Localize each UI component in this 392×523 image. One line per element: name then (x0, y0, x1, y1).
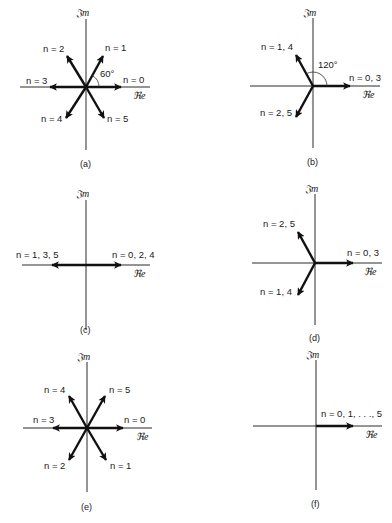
panel-a: 𝔍m ℜe n = 0 n = 1 n = 2 n = 3 n = 4 n = … (20, 7, 150, 169)
vector-n2-5 (298, 232, 315, 263)
vector-label: n = 3 (33, 414, 54, 425)
vector-label: n = 0 (123, 74, 144, 85)
panel-e: 𝔍m ℜe n = 0 n = 5 n = 4 n = 3 n = 2 n = … (23, 351, 152, 512)
vector-label: n = 0, 1, . . ., 5 (321, 408, 382, 419)
vector-label: n = 1 (105, 42, 126, 53)
vector-label: n = 0, 3 (347, 247, 379, 258)
real-axis-label: ℜe (133, 268, 146, 279)
real-axis-label: ℜe (365, 429, 378, 440)
vector-label: n = 1 (110, 460, 131, 471)
imag-axis-label: 𝔍m (76, 351, 90, 362)
vector-label: n = 2 (43, 43, 64, 54)
vector-n1-4 (296, 55, 313, 86)
vector-label: n = 1, 4 (260, 286, 292, 297)
vector-label: n = 3 (26, 75, 47, 86)
panel-caption: (b) (307, 157, 318, 167)
angle-label: 120° (318, 59, 338, 70)
vector-label: n = 2, 5 (263, 218, 295, 229)
imag-axis-label: 𝔍m (75, 188, 89, 199)
vector-n2 (67, 56, 86, 87)
angle-arc (93, 76, 100, 87)
imag-axis-label: 𝔍m (302, 7, 316, 18)
vector-n1 (87, 428, 106, 460)
vector-label: n = 5 (109, 384, 130, 395)
vector-n5 (87, 396, 105, 428)
vector-label: n = 4 (44, 384, 65, 395)
vector-label: n = 1, 4 (261, 41, 293, 52)
panel-b: 𝔍m ℜe n = 0, 3 n = 1, 4 n = 2, 5 120° (b… (250, 7, 381, 167)
imag-axis-label: 𝔍m (304, 183, 318, 194)
vector-label: n = 0 (124, 414, 145, 425)
panel-caption: (d) (309, 333, 320, 343)
real-axis-label: ℜe (364, 266, 377, 277)
vector-n4 (69, 396, 87, 428)
vector-label: n = 0, 3 (349, 72, 381, 83)
phasor-diagram-figure: 𝔍m ℜe n = 0 n = 1 n = 2 n = 3 n = 4 n = … (0, 0, 392, 523)
real-axis-label: ℜe (136, 431, 149, 442)
vector-label: n = 4 (41, 113, 62, 124)
angle-label: 60° (100, 68, 115, 79)
panel-c: 𝔍m ℜe n = 0, 2, 4 n = 1, 3, 5 (c) (16, 188, 155, 335)
vector-n4 (66, 87, 86, 118)
vector-n5 (86, 87, 104, 118)
panel-f: 𝔍m ℜe n = 0, 1, . . ., 5 (f) (253, 349, 382, 509)
real-axis-label: ℜe (133, 90, 146, 101)
imag-axis-label: 𝔍m (75, 7, 89, 18)
vector-label: n = 0, 2, 4 (112, 249, 155, 260)
real-axis-label: ℜe (362, 89, 375, 100)
vector-label: n = 2 (44, 460, 65, 471)
panel-d: 𝔍m ℜe n = 0, 3 n = 2, 5 n = 1, 4 (d) (252, 183, 382, 343)
imag-axis-label: 𝔍m (305, 349, 319, 360)
vector-n1-4 (298, 263, 315, 295)
vector-label: n = 5 (107, 113, 128, 124)
panel-caption: (c) (80, 325, 91, 335)
vector-n2-5 (296, 86, 313, 117)
vector-label: n = 1, 3, 5 (16, 249, 59, 260)
panel-caption: (a) (80, 159, 91, 169)
vector-label: n = 2, 5 (260, 107, 292, 118)
vector-n2 (69, 428, 87, 460)
panel-caption: (e) (81, 502, 92, 512)
panel-caption: (f) (311, 499, 320, 509)
